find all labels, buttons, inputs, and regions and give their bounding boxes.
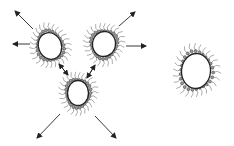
- surfactant-head: [212, 71, 215, 74]
- surfactant-head: [211, 76, 214, 79]
- surfactant-head: [115, 34, 118, 37]
- arrow-icon: [37, 114, 60, 138]
- surfactant-head: [91, 33, 94, 36]
- micelle-diagram: [0, 0, 234, 146]
- surfactant-head: [63, 47, 66, 50]
- surfactant-head: [72, 105, 75, 108]
- micelle-core: [68, 81, 89, 106]
- surfactant-head: [89, 88, 92, 91]
- surfactant-head: [186, 52, 189, 55]
- surfactant-head: [116, 41, 119, 44]
- arrow-icon: [119, 12, 135, 26]
- arrow-icon: [95, 116, 116, 138]
- surfactant-head: [78, 106, 81, 109]
- surfactant-head: [102, 58, 105, 61]
- surfactant-head: [183, 85, 186, 88]
- surfactant-head: [62, 51, 65, 54]
- arrow-icon: [15, 11, 33, 29]
- surfactant-head: [42, 58, 45, 61]
- surfactant-head: [116, 38, 119, 41]
- surfactant-head: [89, 92, 92, 95]
- surfactant-head: [45, 29, 48, 32]
- surfactant-head: [69, 79, 72, 82]
- cluster-top-right: [83, 23, 125, 67]
- cluster-top-left: [29, 22, 72, 68]
- arrow-icon: [87, 65, 95, 78]
- clusters-group: [29, 22, 221, 116]
- diagram-canvas: [0, 0, 234, 146]
- surfactant-head: [37, 53, 40, 56]
- arrow-icon: [59, 64, 68, 75]
- surfactant-head: [90, 37, 93, 40]
- surfactant-head: [194, 50, 197, 53]
- surfactant-head: [98, 57, 101, 60]
- surfactant-head: [42, 30, 45, 33]
- surfactant-head: [67, 81, 70, 84]
- cluster-right: [173, 43, 221, 97]
- surfactant-head: [181, 82, 184, 85]
- cluster-bottom: [58, 72, 98, 116]
- surfactant-head: [211, 66, 214, 69]
- surfactant-head: [62, 44, 65, 47]
- surfactant-head: [88, 85, 91, 88]
- surfactant-head: [65, 85, 68, 88]
- surfactant-head: [48, 29, 51, 32]
- surfactant-head: [105, 57, 108, 60]
- surfactant-head: [94, 31, 97, 34]
- surfactant-head: [75, 106, 78, 109]
- surfactant-head: [190, 50, 193, 53]
- surfactant-head: [39, 56, 42, 59]
- surfactant-head: [187, 88, 190, 91]
- arrows-group: [13, 11, 146, 138]
